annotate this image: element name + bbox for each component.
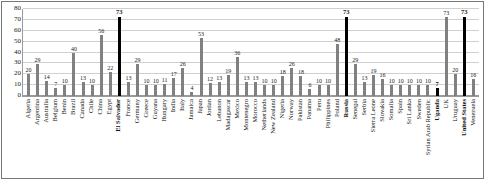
bar bbox=[454, 74, 457, 96]
bar-value-label: 11 bbox=[162, 77, 168, 83]
bar bbox=[336, 44, 339, 96]
bar-value-label: 56 bbox=[98, 28, 104, 34]
x-label-slot: New Zealand bbox=[269, 98, 278, 176]
bar-slot: 16 bbox=[378, 9, 387, 96]
bar-value-label: 10 bbox=[416, 78, 422, 84]
x-label-slot: Lebanon bbox=[214, 98, 223, 176]
bar bbox=[263, 85, 266, 96]
bar bbox=[227, 75, 230, 96]
x-axis-tick-label: Japan bbox=[197, 99, 204, 114]
bar-value-label: 13 bbox=[252, 75, 258, 81]
bar bbox=[272, 85, 275, 96]
bar-slot: 19 bbox=[224, 9, 233, 96]
bar-value-label: 10 bbox=[316, 78, 322, 84]
x-axis-tick-label: Guyana bbox=[152, 99, 159, 119]
x-axis-tick-label: Sri Lanka bbox=[406, 99, 413, 124]
x-label-slot: Netherlands bbox=[259, 98, 268, 176]
bar bbox=[190, 92, 193, 96]
bar bbox=[417, 85, 420, 96]
bar-slot: 13 bbox=[242, 9, 251, 96]
bar-slot: 10 bbox=[60, 9, 69, 96]
x-label-slot: Philippines bbox=[323, 98, 332, 176]
bar-value-label: 16 bbox=[470, 72, 476, 78]
bar-value-label: 29 bbox=[352, 57, 358, 63]
x-axis-tick-label: UK bbox=[443, 99, 450, 108]
bar bbox=[91, 85, 94, 96]
bar bbox=[136, 64, 139, 96]
bar bbox=[118, 17, 121, 96]
bar-slot: 11 bbox=[160, 9, 169, 96]
bar-slot: 13 bbox=[360, 9, 369, 96]
bar bbox=[318, 85, 321, 96]
bar-slot: 22 bbox=[106, 9, 115, 96]
x-label-slot: France bbox=[123, 98, 132, 176]
bar-slot: 10 bbox=[151, 9, 160, 96]
x-axis-tick-label: Syrian Arab Republic bbox=[424, 99, 431, 155]
x-axis-tick-label: El Salvador bbox=[115, 99, 122, 132]
bar-slot: 29 bbox=[351, 9, 360, 96]
x-axis-tick-label: Greece bbox=[143, 99, 150, 117]
bar-value-label: 10 bbox=[398, 78, 404, 84]
y-axis-tick-label: 80 bbox=[14, 4, 23, 12]
bar-slot: 10 bbox=[315, 9, 324, 96]
bar-slot: 13 bbox=[124, 9, 133, 96]
x-label-slot: UK bbox=[441, 98, 450, 176]
bar-value-label: 73 bbox=[443, 10, 449, 16]
bar-value-label: 10 bbox=[325, 78, 331, 84]
bar bbox=[372, 75, 375, 96]
bar-slot: 10 bbox=[88, 9, 97, 96]
bar bbox=[200, 38, 203, 96]
x-axis-tick-label: France bbox=[124, 99, 131, 117]
bar-slot: 7 bbox=[433, 9, 442, 96]
x-axis-tick-label: Belgium bbox=[52, 99, 59, 121]
x-axis-tick-label: Brazil bbox=[70, 99, 77, 115]
bar-slot: 20 bbox=[451, 9, 460, 96]
x-axis-tick-label: Senegal bbox=[352, 99, 359, 120]
bar bbox=[100, 35, 103, 96]
x-label-slot: Algeria bbox=[23, 98, 32, 176]
x-label-slot: Sri Lanka bbox=[405, 98, 414, 176]
bar-value-label: 29 bbox=[35, 57, 41, 63]
x-label-slot: United States bbox=[460, 98, 469, 176]
bar-slot: 53 bbox=[196, 9, 205, 96]
bar-value-label: 13 bbox=[361, 75, 367, 81]
x-axis-tick-label: Australia bbox=[42, 99, 49, 123]
bar-value-label: 19 bbox=[225, 68, 231, 74]
bar bbox=[354, 64, 357, 96]
x-label-slot: Germany bbox=[132, 98, 141, 176]
bar-value-label: 7 bbox=[435, 81, 438, 88]
bar-slot: 20 bbox=[24, 9, 33, 96]
x-label-slot: Syrian Arab Republic bbox=[423, 98, 432, 176]
x-label-slot: Chile bbox=[87, 98, 96, 176]
x-label-slot: Jamaica bbox=[187, 98, 196, 176]
bar-slot: 10 bbox=[414, 9, 423, 96]
x-axis-tick-label: Uganda bbox=[434, 99, 441, 121]
x-label-slot: Japan bbox=[196, 98, 205, 176]
bar bbox=[363, 82, 366, 96]
bar bbox=[245, 82, 248, 96]
y-axis-tick-label: 50 bbox=[14, 37, 23, 45]
bar-value-label: 36 bbox=[234, 50, 240, 56]
bar bbox=[254, 82, 257, 96]
bar-slot: 10 bbox=[324, 9, 333, 96]
bar-slot: 13 bbox=[215, 9, 224, 96]
x-label-slot: Italy bbox=[178, 98, 187, 176]
bar bbox=[399, 85, 402, 96]
bar bbox=[172, 78, 175, 96]
x-axis-tick-label: China bbox=[97, 99, 104, 115]
bar bbox=[72, 53, 75, 97]
bar bbox=[145, 85, 148, 96]
bar-slot: 73 bbox=[442, 9, 451, 96]
bar-slot: 13 bbox=[78, 9, 87, 96]
x-axis-tick-label: Uruguay bbox=[452, 99, 459, 122]
x-label-slot: Morocco bbox=[250, 98, 259, 176]
bar-slot: 10 bbox=[260, 9, 269, 96]
bar bbox=[127, 82, 130, 96]
bar-value-label: 16 bbox=[380, 72, 386, 78]
x-axis-tick-label: Slovakia bbox=[379, 99, 386, 122]
bar-slot: 18 bbox=[278, 9, 287, 96]
bar bbox=[381, 79, 384, 96]
x-axis-tick-label: Serbia bbox=[361, 99, 368, 116]
bar-slot: 73 bbox=[115, 9, 124, 96]
x-label-slot: China bbox=[96, 98, 105, 176]
